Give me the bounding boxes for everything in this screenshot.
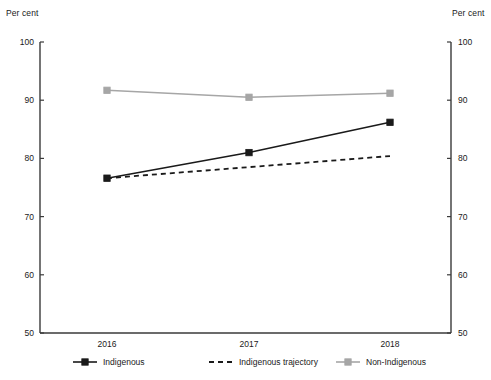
legend-item-indigenous[interactable]: Indigenous (72, 352, 145, 372)
y-axis-left-tick-50: 50 (12, 328, 34, 338)
y-axis-left-tick-70: 70 (12, 212, 34, 222)
y-axis-left-tick-80: 80 (12, 153, 34, 163)
chart-plot-area (0, 0, 491, 380)
x-axis-tick-2017: 2017 (229, 339, 269, 349)
legend-swatch-icon (335, 356, 361, 368)
series-line-indigenous-trajectory (107, 156, 390, 178)
y-axis-left-caption: Per cent (6, 8, 38, 18)
legend-swatch-icon (72, 356, 98, 368)
data-point-non-indigenous-2018 (387, 90, 393, 96)
data-point-non-indigenous-2016 (104, 87, 110, 93)
legend-item-non-indigenous[interactable]: Non-Indigenous (335, 352, 426, 372)
legend-label: Non-Indigenous (366, 358, 426, 367)
legend-item-indigenous-trajectory[interactable]: Indigenous trajectory (208, 352, 318, 372)
data-point-indigenous-2018 (387, 119, 393, 125)
y-axis-right-caption: Per cent (452, 8, 484, 18)
legend-label: Indigenous (103, 358, 145, 367)
y-axis-right-tick-80: 80 (458, 153, 480, 163)
chart-legend: IndigenousIndigenous trajectoryNon-Indig… (0, 352, 491, 378)
data-point-non-indigenous-2017 (246, 94, 252, 100)
y-axis-left-tick-90: 90 (12, 95, 34, 105)
chart-axes (40, 42, 451, 333)
y-axis-right-tick-60: 60 (458, 270, 480, 280)
data-point-indigenous-2017 (246, 149, 252, 155)
y-axis-right-tick-70: 70 (458, 212, 480, 222)
x-axis-tick-2018: 2018 (370, 339, 410, 349)
legend-swatch-icon (208, 356, 234, 368)
y-axis-left-tick-60: 60 (12, 270, 34, 280)
x-axis-tick-2016: 2016 (87, 339, 127, 349)
chart-container: Per cent Per cent 5050606070708080909010… (0, 0, 491, 380)
y-axis-left-tick-100: 100 (12, 37, 34, 47)
chart-series-layer (104, 87, 393, 181)
legend-label: Indigenous trajectory (239, 358, 318, 367)
y-axis-right-tick-100: 100 (458, 37, 480, 47)
y-axis-right-tick-50: 50 (458, 328, 480, 338)
y-axis-right-tick-90: 90 (458, 95, 480, 105)
